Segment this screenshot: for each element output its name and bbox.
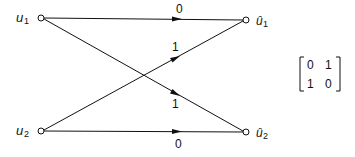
matrix: 0 1 1 0 xyxy=(300,57,340,91)
signal-flow-diagram: 0 1 1 0 u 1 u 2 û 1 û 2 0 1 xyxy=(0,0,355,157)
node-uhat2: û 2 xyxy=(243,126,268,141)
svg-text:u: u xyxy=(16,10,23,25)
svg-text:0: 0 xyxy=(325,77,332,91)
svg-text:2: 2 xyxy=(263,131,268,141)
node-u1: u 1 xyxy=(16,10,44,26)
svg-text:û: û xyxy=(256,126,263,140)
svg-text:1: 1 xyxy=(325,58,332,72)
arrow-icon xyxy=(172,17,182,22)
svg-text:1: 1 xyxy=(24,16,29,26)
left-bracket-icon xyxy=(300,57,304,91)
svg-text:2: 2 xyxy=(24,129,29,139)
svg-text:0: 0 xyxy=(307,58,314,72)
svg-text:1: 1 xyxy=(307,77,314,91)
edge-weight: 1 xyxy=(172,40,179,54)
node-u2: u 2 xyxy=(16,123,44,139)
svg-text:1: 1 xyxy=(263,19,268,29)
edge-u2-uhat2: 0 xyxy=(44,129,243,151)
edge-weight: 1 xyxy=(172,97,179,111)
svg-text:û: û xyxy=(256,14,263,28)
arrow-icon xyxy=(172,129,182,134)
svg-text:u: u xyxy=(16,123,23,138)
edge-weight: 0 xyxy=(175,137,182,151)
edge-weight: 0 xyxy=(176,2,183,16)
node-uhat1: û 1 xyxy=(243,14,268,29)
edge-u1-uhat1: 0 xyxy=(44,2,243,22)
arrow-icon xyxy=(170,89,180,96)
right-bracket-icon xyxy=(336,57,340,91)
arrow-icon xyxy=(170,56,180,63)
